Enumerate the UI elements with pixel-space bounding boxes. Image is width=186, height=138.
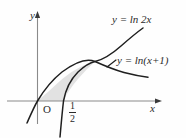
- fraction-one-half: 1 2: [69, 101, 76, 124]
- x-tick-label-one-half: 1 2: [69, 101, 76, 125]
- math-figure: y = ln 2x y = ln(x+1) y x O 1 2: [0, 0, 186, 138]
- figure-canvas: [0, 0, 186, 138]
- curve-label-lnx1-text: y = ln(x+1): [117, 54, 169, 66]
- fraction-denominator: 2: [69, 114, 76, 125]
- curve-label-lnx1: y = ln(x+1): [117, 55, 169, 66]
- x-axis-label: x: [150, 103, 155, 114]
- origin-label: O: [43, 104, 51, 115]
- curve-label-ln2x: y = ln 2x: [112, 14, 152, 25]
- fraction-numerator: 1: [69, 101, 76, 112]
- y-axis-arrowhead: [35, 11, 40, 18]
- x-axis-arrowhead: [155, 98, 162, 103]
- y-axis-label: y: [30, 10, 35, 21]
- label-leader-lnx1: [107, 60, 116, 67]
- shaded-region: [38, 62, 96, 102]
- curve-label-ln2x-text: y = ln 2x: [112, 13, 152, 25]
